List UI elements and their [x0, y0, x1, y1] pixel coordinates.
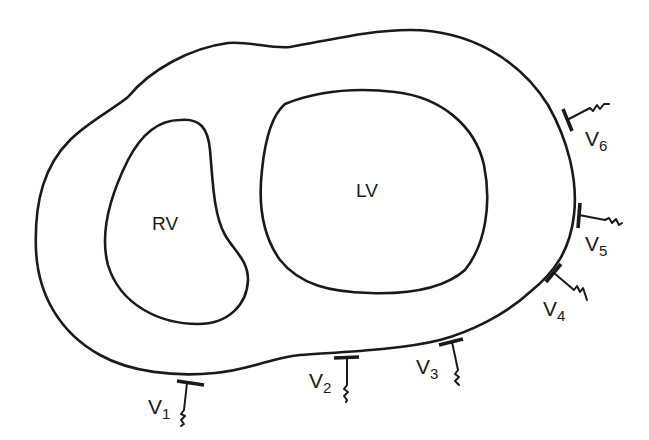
lead-wire-icon [567, 104, 609, 120]
lead-v3-label: V3 [416, 355, 438, 382]
lead-v1-label: V1 [148, 395, 170, 422]
lead-v3-electrode: V3 [416, 339, 463, 385]
lead-v5-electrode: V5 [578, 203, 622, 259]
electrode-plate-icon [177, 381, 204, 385]
lead-wire-icon [452, 342, 459, 385]
lead-v2-electrode: V2 [309, 357, 359, 402]
lead-wire-icon [181, 383, 187, 426]
lead-v5-label: V5 [585, 232, 607, 259]
lead-wire-icon [554, 273, 587, 300]
lead-v1-electrode: V1 [148, 381, 204, 426]
lead-v6-electrode: V6 [563, 104, 609, 154]
lead-v2-label: V2 [309, 369, 331, 396]
lead-wire-icon [579, 215, 622, 225]
heart-cross-section-diagram: RV LV V1 V2 V3 V4 V5 V6 [0, 0, 649, 440]
lead-v6-label: V6 [585, 127, 607, 154]
lead-v4-label: V4 [543, 297, 565, 324]
lv-label: LV [356, 180, 378, 201]
lead-wire-icon [344, 358, 348, 402]
heart-outer-outline [36, 30, 575, 374]
rv-label: RV [152, 213, 178, 234]
